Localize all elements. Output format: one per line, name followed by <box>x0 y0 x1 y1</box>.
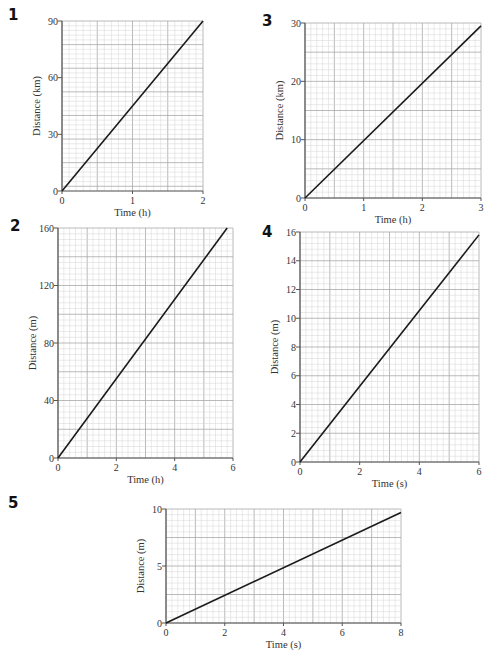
y-tick-label: 30 <box>291 18 301 29</box>
question-number-1: 1 <box>8 6 18 24</box>
y-tick-label: 2 <box>291 428 296 439</box>
y-tick-label: 40 <box>44 395 54 406</box>
y-tick-label: 160 <box>39 223 54 234</box>
x-tick-label: 2 <box>114 462 119 473</box>
question-number-3: 3 <box>262 12 272 30</box>
y-axis-label: Distance (km) <box>31 76 43 136</box>
x-tick-label: 3 <box>479 202 484 213</box>
chart-plot: 051002468Time (s)Distance (m) <box>166 509 401 623</box>
question-number-2: 2 <box>10 217 20 235</box>
y-tick-label: 14 <box>286 255 296 266</box>
x-tick-label: 6 <box>340 627 345 638</box>
x-tick-label: 6 <box>231 462 236 473</box>
y-tick-label: 120 <box>39 280 54 291</box>
chart-4-distance-time: 02468101214160246Time (s)Distance (m) <box>300 232 479 462</box>
y-tick-label: 0 <box>291 457 296 468</box>
y-tick-label: 10 <box>152 504 162 515</box>
chart-plot: 02468101214160246Time (s)Distance (m) <box>300 232 479 462</box>
y-tick-label: 10 <box>286 313 296 324</box>
y-tick-label: 0 <box>53 186 58 197</box>
y-axis-label: Distance (m) <box>135 538 147 593</box>
x-tick-label: 0 <box>303 202 308 213</box>
x-tick-label: 6 <box>477 466 482 477</box>
x-tick-label: 2 <box>420 202 425 213</box>
x-tick-label: 1 <box>130 195 135 206</box>
x-tick-label: 0 <box>56 462 61 473</box>
y-tick-label: 5 <box>157 561 162 572</box>
x-tick-label: 1 <box>361 202 366 213</box>
chart-5-distance-time: 051002468Time (s)Distance (m) <box>166 509 401 623</box>
x-axis-label: Time (h) <box>127 474 164 486</box>
y-tick-label: 16 <box>286 227 296 238</box>
question-number-4: 4 <box>262 223 272 241</box>
y-axis-label: Distance (km) <box>274 80 286 140</box>
y-tick-label: 80 <box>44 338 54 349</box>
y-tick-label: 30 <box>48 129 58 140</box>
y-tick-label: 6 <box>291 370 296 381</box>
y-tick-label: 4 <box>291 399 296 410</box>
x-tick-label: 0 <box>60 195 65 206</box>
chart-1-distance-time: 0306090012Time (h)Distance (km) <box>62 21 203 191</box>
chart-2-distance-time: 040801201600246Time (h)Distance (m) <box>58 228 233 458</box>
y-tick-label: 12 <box>286 284 296 295</box>
y-tick-label: 10 <box>291 134 301 145</box>
x-tick-label: 2 <box>201 195 206 206</box>
x-tick-label: 2 <box>357 466 362 477</box>
x-tick-label: 4 <box>172 462 177 473</box>
y-tick-label: 0 <box>49 453 54 464</box>
x-tick-label: 0 <box>164 627 169 638</box>
chart-plot: 01020300123Time (h)Distance (km) <box>305 23 481 198</box>
question-number-5: 5 <box>8 494 18 512</box>
y-axis-label: Distance (m) <box>27 315 39 370</box>
chart-plot: 040801201600246Time (h)Distance (m) <box>58 228 233 458</box>
chart-3-distance-time: 01020300123Time (h)Distance (km) <box>305 23 481 198</box>
y-tick-label: 90 <box>48 16 58 27</box>
x-tick-label: 0 <box>298 466 303 477</box>
x-axis-label: Time (s) <box>266 639 302 650</box>
x-tick-label: 4 <box>281 627 286 638</box>
x-axis-label: Time (s) <box>372 478 408 490</box>
x-axis-label: Time (h) <box>114 207 151 219</box>
y-tick-label: 0 <box>157 618 162 629</box>
y-tick-label: 20 <box>291 76 301 87</box>
y-tick-label: 60 <box>48 72 58 83</box>
x-axis-label: Time (h) <box>375 214 412 226</box>
y-tick-label: 8 <box>291 342 296 353</box>
x-tick-label: 8 <box>399 627 404 638</box>
y-tick-label: 0 <box>296 193 301 204</box>
y-axis-label: Distance (m) <box>269 319 281 374</box>
x-tick-label: 2 <box>222 627 227 638</box>
x-tick-label: 4 <box>417 466 422 477</box>
chart-plot: 0306090012Time (h)Distance (km) <box>62 21 203 191</box>
